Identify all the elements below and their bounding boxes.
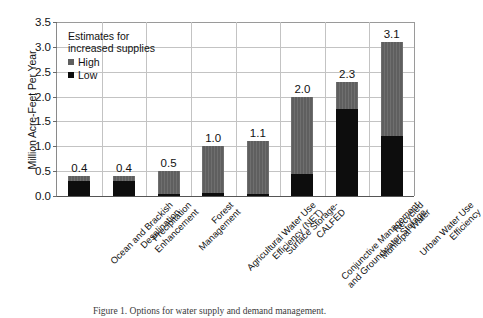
- bar-segment-low: [202, 193, 224, 196]
- bar-value-label: 0.4: [71, 162, 87, 174]
- x-gridline: [369, 22, 370, 196]
- bar-value-label: 1.1: [250, 127, 266, 139]
- legend-title-line1: Estimates for: [68, 30, 155, 42]
- bar-value-label: 3.1: [384, 28, 400, 40]
- bar-4[interactable]: [202, 146, 224, 196]
- bar-segment-high: [202, 146, 224, 196]
- legend-swatch-low-icon: [68, 72, 74, 78]
- bar-value-label: 0.4: [116, 162, 132, 174]
- bar-7[interactable]: [336, 82, 358, 196]
- bar-segment-low: [381, 136, 403, 196]
- x-gridline: [236, 22, 237, 196]
- y-tick-mark: [53, 146, 57, 147]
- y-tick-mark: [53, 97, 57, 98]
- bar-3[interactable]: [158, 171, 180, 196]
- x-axis-category-labels: Ocean and BrackishDesalinationPrecipitat…: [0, 198, 419, 294]
- y-tick-label: 1.5: [35, 115, 51, 127]
- y-tick-mark: [53, 121, 57, 122]
- legend-swatch-high-icon: [68, 59, 74, 65]
- y-tick-label: 1.0: [35, 140, 51, 152]
- y-tick-label: 2.5: [35, 66, 51, 78]
- bar-segment-low: [113, 181, 135, 196]
- bar-value-label: 2.0: [294, 83, 310, 95]
- legend-item-low: Low: [68, 69, 155, 81]
- bar-8[interactable]: [381, 42, 403, 196]
- y-tick-label: 3.0: [35, 41, 51, 53]
- y-tick-label: 2.0: [35, 91, 51, 103]
- legend-title-line2: increased supplies: [68, 42, 155, 54]
- bar-1[interactable]: [68, 176, 90, 196]
- x-gridline: [325, 22, 326, 196]
- bar-6[interactable]: [291, 97, 313, 196]
- bar-segment-low: [336, 109, 358, 196]
- bar-segment-high: [158, 171, 180, 196]
- x-gridline: [280, 22, 281, 196]
- chart-legend: Estimates for increased supplies High Lo…: [68, 30, 155, 82]
- bar-value-label: 0.5: [161, 157, 177, 169]
- legend-label-high: High: [78, 56, 100, 68]
- y-tick-label: 3.5: [35, 16, 51, 28]
- legend-label-low: Low: [78, 69, 97, 81]
- x-category-label-3: ForestManagement: [189, 200, 242, 253]
- y-tick-mark: [53, 47, 57, 48]
- bar-segment-high: [247, 141, 269, 196]
- figure-caption: Figure 1. Options for water supply and d…: [0, 306, 419, 316]
- x-gridline: [191, 22, 192, 196]
- y-tick-mark: [53, 72, 57, 73]
- y-tick-label: 0.5: [35, 165, 51, 177]
- bar-segment-low: [158, 194, 180, 196]
- bar-segment-low: [247, 194, 269, 196]
- bar-value-label: 1.0: [205, 132, 221, 144]
- y-tick-mark: [53, 22, 57, 23]
- bar-segment-low: [68, 181, 90, 196]
- y-tick-mark: [53, 196, 57, 197]
- bar-value-label: 2.3: [339, 68, 355, 80]
- bar-2[interactable]: [113, 176, 135, 196]
- x-gridline: [414, 22, 415, 196]
- bar-5[interactable]: [247, 141, 269, 196]
- y-tick-mark: [53, 171, 57, 172]
- legend-item-high: High: [68, 56, 155, 68]
- bar-segment-low: [291, 174, 313, 196]
